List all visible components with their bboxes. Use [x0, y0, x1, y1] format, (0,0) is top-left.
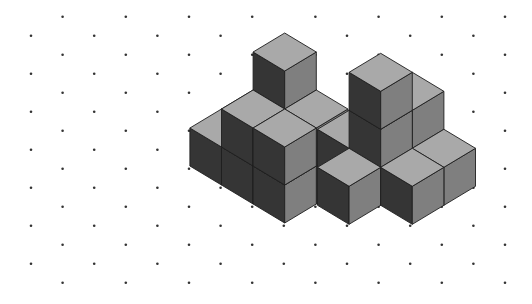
grid-dot [346, 34, 349, 37]
grid-dot [504, 15, 507, 18]
grid-dot [409, 262, 412, 265]
grid-dot [472, 224, 475, 227]
grid-dot [93, 262, 96, 265]
grid-dot [93, 224, 96, 227]
grid-dot [188, 91, 191, 94]
grid-dot [156, 224, 159, 227]
grid-dot [61, 53, 64, 56]
grid-dot [93, 72, 96, 75]
grid-dot [377, 15, 380, 18]
grid-dot [219, 262, 222, 265]
grid-dot [472, 34, 475, 37]
grid-dot [156, 262, 159, 265]
grid-dot [61, 243, 64, 246]
grid-dot [441, 281, 444, 284]
grid-dot [61, 167, 64, 170]
grid-dot [504, 243, 507, 246]
grid-dot [30, 262, 33, 265]
grid-dot [61, 15, 64, 18]
grid-dot [125, 15, 128, 18]
grid-dot [156, 186, 159, 189]
grid-dot [219, 34, 222, 37]
grid-dot [93, 34, 96, 37]
grid-dot [93, 110, 96, 113]
grid-dot [188, 243, 191, 246]
grid-dot [125, 53, 128, 56]
grid-dot [30, 224, 33, 227]
grid-dot [93, 148, 96, 151]
grid-dot [125, 243, 128, 246]
grid-dot [441, 15, 444, 18]
grid-dot [125, 91, 128, 94]
grid-dot [188, 167, 191, 170]
grid-dot [61, 91, 64, 94]
grid-dot [504, 129, 507, 132]
grid-dot [188, 281, 191, 284]
grid-dot [251, 205, 254, 208]
grid-dot [188, 15, 191, 18]
grid-dot [30, 186, 33, 189]
grid-dot [441, 53, 444, 56]
grid-dot [188, 53, 191, 56]
grid-dot [504, 205, 507, 208]
grid-dot [314, 15, 317, 18]
grid-dot [125, 205, 128, 208]
grid-dot [314, 281, 317, 284]
grid-dot [346, 72, 349, 75]
grid-dot [219, 186, 222, 189]
grid-dot [125, 129, 128, 132]
grid-dot [504, 281, 507, 284]
grid-dot [472, 110, 475, 113]
grid-dot [472, 72, 475, 75]
grid-dot [346, 262, 349, 265]
grid-dot [156, 72, 159, 75]
grid-dot [219, 72, 222, 75]
grid-dot [504, 167, 507, 170]
grid-dot [125, 281, 128, 284]
grid-dot [93, 186, 96, 189]
grid-dot [156, 148, 159, 151]
grid-dot [409, 34, 412, 37]
grid-dot [61, 281, 64, 284]
grid-dot [283, 262, 286, 265]
grid-dot [504, 53, 507, 56]
grid-dot [504, 91, 507, 94]
grid-dot [219, 224, 222, 227]
grid-dot [61, 129, 64, 132]
grid-dot [251, 243, 254, 246]
grid-dot [30, 110, 33, 113]
grid-dot [251, 281, 254, 284]
grid-dot [156, 34, 159, 37]
grid-dot [441, 243, 444, 246]
grid-dot [314, 205, 317, 208]
isometric-dot-paper [0, 0, 532, 304]
grid-dot [377, 243, 380, 246]
grid-dot [30, 148, 33, 151]
grid-dot [156, 110, 159, 113]
grid-dot [251, 15, 254, 18]
grid-dot [125, 167, 128, 170]
grid-dot [377, 281, 380, 284]
grid-dot [283, 224, 286, 227]
diagram-canvas [0, 0, 532, 304]
grid-dot [472, 262, 475, 265]
grid-dot [346, 224, 349, 227]
right-cube-figure [318, 53, 476, 224]
grid-dot [314, 243, 317, 246]
grid-dot [188, 205, 191, 208]
grid-dot [409, 224, 412, 227]
grid-dot [30, 72, 33, 75]
grid-dot [30, 34, 33, 37]
grid-dot [61, 205, 64, 208]
